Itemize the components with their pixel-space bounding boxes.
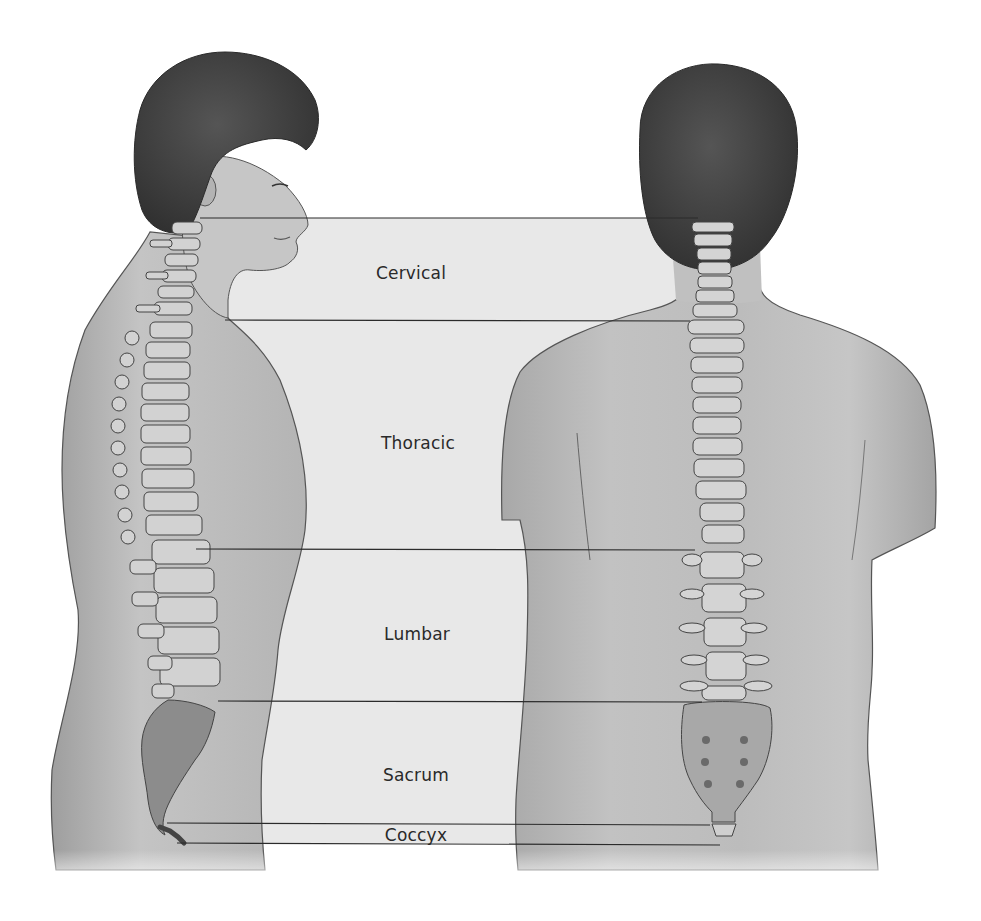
label-cervical: Cervical: [376, 263, 446, 283]
label-sacrum: Sacrum: [383, 765, 449, 785]
label-thoracic: Thoracic: [381, 433, 455, 453]
diagram-canvas: [0, 0, 981, 921]
posterior-figure: [502, 64, 936, 870]
spine-diagram: Cervical Thoracic Lumbar Sacrum Coccyx: [0, 0, 981, 921]
label-coccyx: Coccyx: [385, 825, 447, 845]
label-lumbar: Lumbar: [384, 624, 450, 644]
